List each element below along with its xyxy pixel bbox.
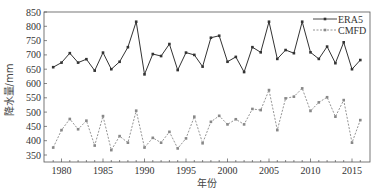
data-point-marker [218,34,221,37]
y-tick-label: 750 [26,35,41,46]
data-point-marker [77,128,80,131]
data-point-marker [52,146,55,149]
y-tick-label: 550 [26,92,41,103]
data-point-marker [235,56,238,59]
data-point-marker [110,149,113,152]
data-point-marker [102,51,105,54]
data-point-marker [334,115,337,118]
x-tick-label: 1980 [52,165,72,176]
x-tick-label: 2000 [218,165,238,176]
data-point-marker [168,43,171,46]
data-point-marker [259,51,262,54]
data-point-marker [268,89,271,92]
data-point-marker [259,109,262,112]
data-point-marker [102,115,105,118]
data-point-marker [168,131,171,134]
data-point-marker [93,69,96,72]
data-point-marker [342,99,345,102]
data-point-marker [135,109,138,112]
data-point-marker [309,110,312,113]
data-point-marker [309,51,312,54]
data-point-marker [152,53,155,56]
data-point-marker [85,58,88,61]
x-tick-label: 2010 [301,165,321,176]
y-tick-label: 700 [26,49,41,60]
legend-item-era5: ERA5 [313,14,363,25]
data-point-marker [251,46,254,49]
data-point-marker [193,115,196,118]
y-tick-label: 800 [26,21,41,32]
data-point-marker [251,108,254,111]
data-point-marker [334,62,337,65]
x-tick-label: 1990 [135,165,155,176]
series-group [52,20,362,151]
legend-label: CMFD [338,25,366,36]
data-point-marker [318,58,321,61]
data-point-marker [293,95,296,98]
legend-marker-icon [324,29,327,32]
data-point-marker [60,129,63,132]
data-point-marker [326,45,329,48]
x-axis-title: 年份 [197,177,217,189]
data-point-marker [193,54,196,57]
data-point-marker [301,20,304,23]
data-point-marker [226,60,229,63]
data-point-marker [60,61,63,64]
x-tick-label: 1985 [93,165,113,176]
legend-item-cmfd: CMFD [313,25,366,36]
data-point-marker [176,69,179,72]
data-point-marker [359,119,362,122]
data-point-marker [284,49,287,52]
data-point-marker [160,141,163,144]
data-point-marker [160,55,163,58]
data-point-marker [127,46,130,49]
data-point-marker [201,65,204,68]
y-tick-label: 350 [26,150,41,161]
data-point-marker [218,115,221,118]
data-point-marker [127,141,130,144]
data-point-marker [118,135,121,138]
data-point-marker [235,118,238,121]
data-point-marker [226,123,229,126]
legend: ERA5CMFD [313,14,366,36]
series-line [53,88,360,150]
legend-marker-icon [324,18,327,21]
data-point-marker [326,96,329,99]
data-point-marker [276,129,279,132]
data-point-marker [201,142,204,145]
data-point-marker [284,97,287,100]
x-tick-label: 2015 [342,165,362,176]
data-point-marker [351,68,354,71]
data-point-marker [69,52,72,55]
data-point-marker [52,66,55,69]
data-point-marker [143,73,146,76]
x-axis: 19801985199019952000200520102015 [52,159,363,177]
data-point-marker [276,58,279,61]
data-point-marker [268,20,271,23]
data-point-marker [301,87,304,90]
x-tick-label: 2005 [259,165,279,176]
data-point-marker [176,147,179,150]
series-era5 [52,20,362,75]
x-tick-label: 1995 [176,165,196,176]
series-cmfd [52,87,362,151]
y-tick-label: 500 [26,107,41,118]
data-point-marker [359,59,362,62]
y-tick-label: 600 [26,78,41,89]
data-point-marker [93,144,96,147]
data-point-marker [110,68,113,71]
data-point-marker [85,119,88,122]
y-tick-label: 850 [26,7,41,18]
y-tick-label: 450 [26,121,41,132]
data-point-marker [293,52,296,55]
y-axis-title: 降水量/mm [3,64,15,117]
data-point-marker [351,141,354,144]
y-tick-label: 400 [26,135,41,146]
data-point-marker [152,137,155,140]
data-point-marker [143,146,146,149]
precipitation-line-chart: 350400450500550600650700750800850 198019… [0,0,380,191]
data-point-marker [69,118,72,121]
data-point-marker [135,20,138,23]
legend-label: ERA5 [338,14,363,25]
data-point-marker [77,61,80,64]
